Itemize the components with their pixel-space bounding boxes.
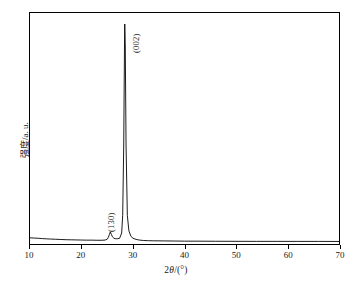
x-axis-title-suffix: /(°) xyxy=(174,265,188,275)
xrd-data-curve xyxy=(30,13,339,244)
x-tick-mark xyxy=(236,245,237,249)
x-tick-mark xyxy=(81,245,82,249)
x-tick-label: 70 xyxy=(325,250,352,261)
xrd-chart-figure: 10 20 30 40 50 60 70 2θ/(°) 强度/a. u. (00… xyxy=(0,0,352,292)
plot-frame xyxy=(29,12,340,245)
x-tick-mark xyxy=(185,245,186,249)
x-axis-title: 2θ/(°) xyxy=(0,265,352,275)
x-tick-label: 60 xyxy=(273,250,303,261)
x-tick-label: 40 xyxy=(170,250,200,261)
peak-label-002: (002) xyxy=(131,34,141,53)
y-axis-title: 强度/a. u. xyxy=(20,144,31,158)
x-tick-mark xyxy=(288,245,289,249)
x-tick-mark xyxy=(340,245,341,249)
x-tick-label: 30 xyxy=(118,250,148,261)
x-tick-mark xyxy=(133,245,134,249)
x-tick-label: 50 xyxy=(221,250,251,261)
x-tick-label: 20 xyxy=(66,250,96,261)
x-tick-label: 10 xyxy=(14,250,44,261)
diffraction-pattern-line xyxy=(30,24,339,241)
x-tick-mark xyxy=(29,245,30,249)
peak-label-130: (130) xyxy=(106,213,116,232)
